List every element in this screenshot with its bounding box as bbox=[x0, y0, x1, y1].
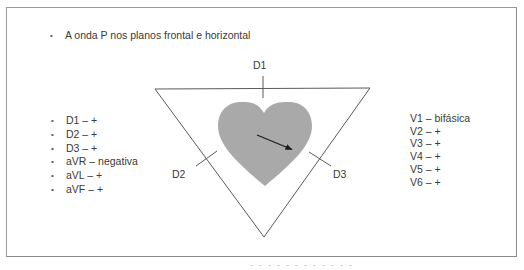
d2-label: D2 bbox=[172, 168, 185, 180]
d1-label: D1 bbox=[253, 59, 266, 71]
d3-label: D3 bbox=[333, 168, 346, 180]
clipped-text-fragment bbox=[250, 265, 520, 270]
einthoven-triangle-diagram bbox=[0, 0, 524, 270]
